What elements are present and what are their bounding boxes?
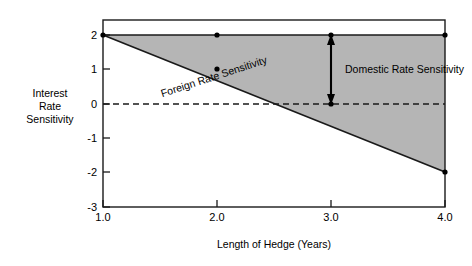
y-tick-label-0: 0	[91, 98, 97, 110]
marker-1-2	[100, 32, 105, 37]
marker-4-2	[442, 32, 447, 37]
x-tick-label-2: 2.0	[209, 211, 224, 223]
interest-rate-sensitivity-chart: 2 1 0 -1 -2 -3 1.0 2.0 3.0 4.0	[0, 0, 472, 266]
y-tick-label-1: 1	[91, 63, 97, 75]
y-axis-title-line-3: Sensitivity	[26, 113, 74, 125]
marker-3-2	[328, 32, 333, 37]
x-tick-label-1: 1.0	[95, 211, 110, 223]
y-tick-label-2: 2	[91, 29, 97, 41]
x-tick-label-3: 3.0	[323, 211, 338, 223]
x-axis-title: Length of Hedge (Years)	[217, 238, 331, 250]
x-tick-label-4: 4.0	[437, 211, 452, 223]
domestic-rate-sensitivity-annotation: Domestic Rate Sensitivity	[345, 63, 465, 75]
chart-figure: 2 1 0 -1 -2 -3 1.0 2.0 3.0 4.0	[0, 0, 472, 266]
y-tick-label-neg1: -1	[87, 132, 97, 144]
marker-3-0	[328, 101, 333, 106]
y-tick-label-neg2: -2	[87, 166, 97, 178]
marker-2-2	[214, 32, 219, 37]
marker-4-neg1	[442, 169, 447, 174]
y-axis-title-line-1: Interest	[32, 87, 67, 99]
y-axis-title-line-2: Rate	[39, 100, 61, 112]
